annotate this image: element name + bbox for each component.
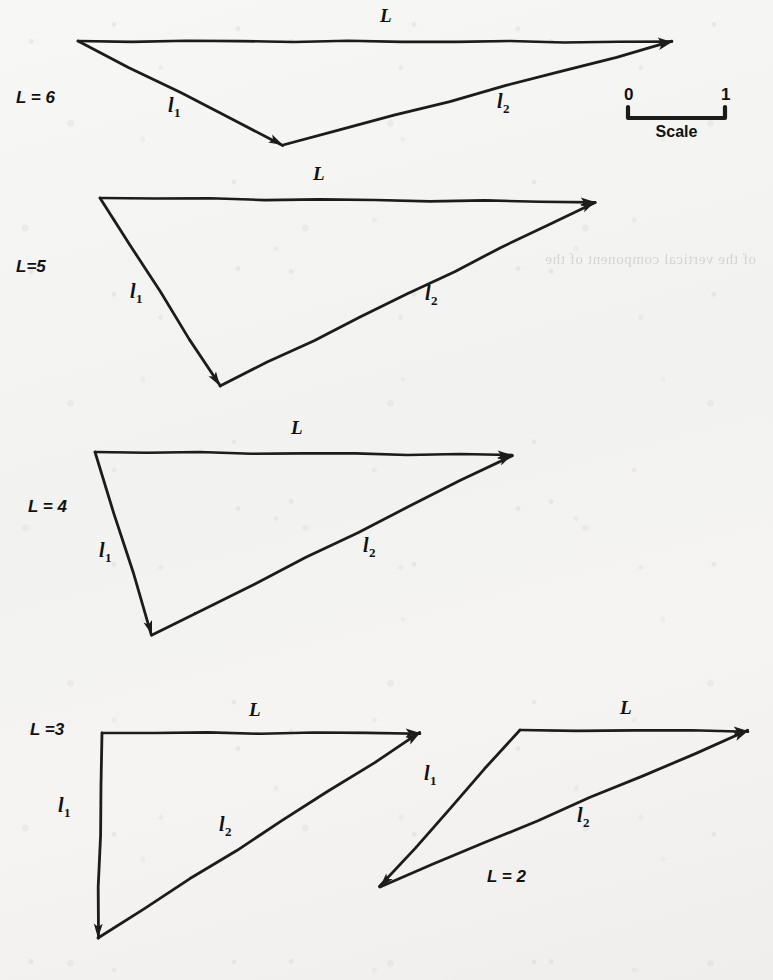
label-l1-L2: l1 bbox=[424, 762, 437, 788]
component-vector-l2 bbox=[220, 203, 595, 387]
vector-triangle-L2 bbox=[379, 727, 748, 888]
label-L-L6: L bbox=[379, 5, 392, 26]
component-vector-l2 bbox=[98, 732, 420, 938]
vector-triangle-L3 bbox=[94, 729, 420, 938]
component-vector-l1 bbox=[100, 198, 220, 386]
vector-triangle-L6 bbox=[78, 38, 672, 146]
label-l1-L5: l1 bbox=[130, 280, 143, 306]
label-l2-L2: l2 bbox=[577, 804, 590, 830]
component2-arrowhead bbox=[497, 455, 512, 465]
figure-page: of the vertical component of the L = 6Ll… bbox=[0, 0, 773, 980]
scale-bar-bracket bbox=[628, 107, 725, 118]
case-label-L6: L = 6 bbox=[16, 88, 55, 107]
label-l1-L6: l1 bbox=[168, 94, 181, 120]
component-vector-l2 bbox=[283, 41, 672, 145]
resultant-vector-L bbox=[100, 198, 595, 202]
vector-triangle-L4 bbox=[95, 451, 512, 636]
scale-label-max: 1 bbox=[721, 85, 730, 104]
component-vector-l1 bbox=[379, 730, 520, 887]
scale-caption: Scale bbox=[656, 123, 698, 140]
case-label-L3: L =3 bbox=[30, 720, 65, 739]
component-vector-l1 bbox=[78, 41, 283, 146]
component-vector-l2 bbox=[380, 730, 748, 887]
case-label-L5: L=5 bbox=[16, 257, 46, 276]
label-l2-L4: l2 bbox=[363, 534, 376, 560]
component1-arrowhead bbox=[209, 372, 220, 387]
vector-triangle-L5 bbox=[100, 198, 595, 387]
label-L-L2: L bbox=[619, 697, 632, 718]
component-vector-l1 bbox=[98, 733, 102, 938]
label-L-L3: L bbox=[248, 699, 261, 720]
resultant-vector-L bbox=[102, 732, 420, 733]
resultant-vector-L bbox=[95, 452, 512, 455]
label-l2-L6: l2 bbox=[497, 90, 510, 116]
resultant-vector-L bbox=[520, 730, 748, 732]
label-l2-L5: l2 bbox=[425, 282, 438, 308]
scale-label-min: 0 bbox=[624, 85, 633, 104]
label-l2-L3: l2 bbox=[219, 813, 232, 839]
label-L-L5: L bbox=[312, 163, 325, 184]
resultant-vector-L bbox=[78, 41, 672, 43]
label-l1-L4: l1 bbox=[99, 539, 112, 565]
label-L-L4: L bbox=[290, 417, 303, 438]
label-l1-L3: l1 bbox=[58, 794, 71, 820]
component-vector-l2 bbox=[152, 456, 512, 635]
vector-diagram-canvas: L = 6Ll1l2L=5Ll1l2L = 4Ll1l2L =3Ll1l2L =… bbox=[0, 0, 773, 980]
scale-bar: 01Scale bbox=[624, 85, 730, 140]
case-label-L2: L = 2 bbox=[487, 867, 526, 886]
case-label-L4: L = 4 bbox=[28, 497, 67, 516]
